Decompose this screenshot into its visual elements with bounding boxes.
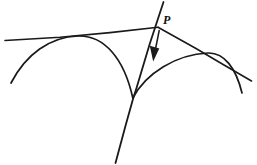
arrow-shaft bbox=[156, 31, 160, 50]
upper-left-tangent-line bbox=[5, 27, 158, 40]
geometry-drawing bbox=[0, 0, 257, 165]
caption-fragment bbox=[6, 157, 66, 165]
point-label-p: P bbox=[163, 14, 170, 26]
right-arc bbox=[133, 53, 242, 98]
lower-right-tangent-line bbox=[158, 27, 252, 81]
figure-canvas: P bbox=[0, 0, 257, 165]
left-arc bbox=[11, 36, 133, 98]
arrow-head-icon bbox=[150, 46, 160, 62]
normal-line-through-p bbox=[116, 2, 164, 163]
